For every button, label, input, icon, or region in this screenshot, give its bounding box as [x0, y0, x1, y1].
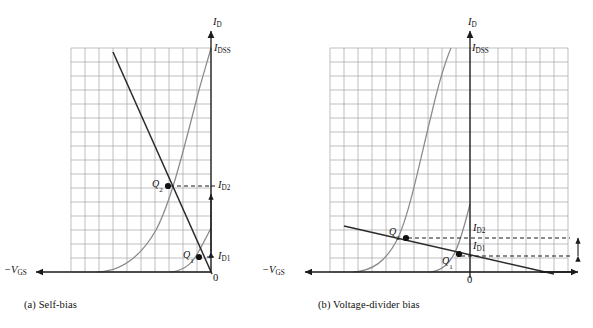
q2-marker [165, 183, 171, 189]
q1-marker [456, 251, 462, 257]
grid-horizontal-lines [330, 48, 568, 272]
y-axis-label: ID [213, 16, 222, 27]
origin-label: 0 [213, 272, 218, 283]
panel-b-caption: (b) Voltage-divider bias [318, 299, 420, 310]
idss-label-sub: DSS [476, 47, 489, 55]
y-axis-label: ID [468, 16, 477, 27]
x-axis-label-text: −V [262, 264, 276, 275]
panel-a-caption: (a) Self-bias [24, 299, 77, 310]
idss-label: IDSS [472, 42, 489, 53]
q1-label: Q1 [183, 249, 194, 263]
x-axis-label: −VGS [262, 264, 285, 275]
q2-label: Q2 [152, 178, 163, 192]
id2-label-sub: D2 [222, 184, 231, 192]
origin-label-text: 0 [467, 274, 472, 285]
grid [330, 48, 568, 272]
x-axis-label-sub: GS [18, 269, 27, 277]
y-axis-label-text: I [468, 16, 472, 27]
q2-label-sub: 2 [159, 186, 163, 194]
grid [71, 48, 211, 272]
idss-label-text: I [214, 42, 218, 53]
id1-label-text: I [473, 240, 477, 251]
q1-label-sub: 1 [449, 263, 453, 271]
id1-label: ID1 [473, 240, 485, 251]
q1-label: Q1 [442, 255, 453, 269]
panel-voltage-divider-bias: ID IDSS −VGS 0 Q2 Q1 ID2 ID1 (b) Voltage… [296, 0, 593, 328]
id1-label-text: I [218, 250, 222, 261]
voltage-divider-bias-plot [296, 0, 593, 328]
id2-label-text: I [218, 179, 222, 190]
idss-label: IDSS [214, 42, 231, 53]
id1-label: ID1 [218, 250, 230, 261]
panel-self-bias: ID IDSS −VGS 0 Q2 Q1 ID2 ID1 (a) Self-bi… [0, 0, 296, 328]
y-axis-label-sub: D [472, 21, 477, 29]
idss-label-text: I [472, 42, 476, 53]
y-axis-label-text: I [213, 16, 217, 27]
idss-label-sub: DSS [218, 47, 231, 55]
q2-label-sub: 2 [396, 234, 400, 242]
id1-label-sub: D1 [477, 245, 486, 253]
id2-label-text: I [473, 222, 477, 233]
y-axis-label-sub: D [217, 21, 222, 29]
q2-marker [403, 235, 409, 241]
x-axis-label: −VGS [4, 264, 27, 275]
id2-label: ID2 [473, 222, 485, 233]
q1-label-sub: 1 [190, 257, 194, 265]
origin-label-text: 0 [213, 272, 218, 283]
id1-label-sub: D1 [222, 255, 231, 263]
q1-marker [196, 254, 202, 260]
self-bias-plot [0, 0, 296, 328]
x-axis-label-text: −V [4, 264, 18, 275]
origin-label: 0 [467, 274, 472, 285]
x-axis-label-sub: GS [276, 269, 285, 277]
id2-label: ID2 [218, 179, 230, 190]
q2-label: Q2 [389, 226, 400, 240]
id2-label-sub: D2 [477, 227, 486, 235]
